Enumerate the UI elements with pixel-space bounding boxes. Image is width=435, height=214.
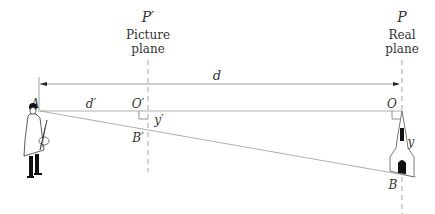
picture-plane-symbol: P′ — [141, 9, 155, 25]
arrowhead-left-icon — [40, 82, 47, 86]
distance-d-label: d — [213, 68, 221, 83]
real-plane-label-line2: plane — [385, 42, 419, 56]
real-plane-symbol: P — [396, 9, 407, 25]
perspective-diagram: P′ Picture plane P Real plane d A d′ O′ … — [0, 0, 435, 214]
point-O-label: O — [387, 97, 397, 111]
painter-figure-icon — [24, 103, 49, 178]
point-B-prime-label: B′ — [131, 131, 144, 145]
distance-d-prime-label: d′ — [86, 97, 97, 111]
picture-plane-label-line1: Picture — [126, 28, 170, 42]
arrowhead-right-icon — [393, 82, 400, 86]
right-angle-marker-picture — [139, 111, 148, 119]
picture-plane-label-line2: plane — [131, 42, 165, 56]
real-plane-label-line1: Real — [388, 28, 415, 42]
point-B-label: B — [388, 178, 398, 192]
point-O-prime-label: O′ — [132, 97, 145, 111]
distance-y-prime-label: y′ — [153, 113, 164, 127]
sight-line-slanted — [40, 111, 416, 177]
